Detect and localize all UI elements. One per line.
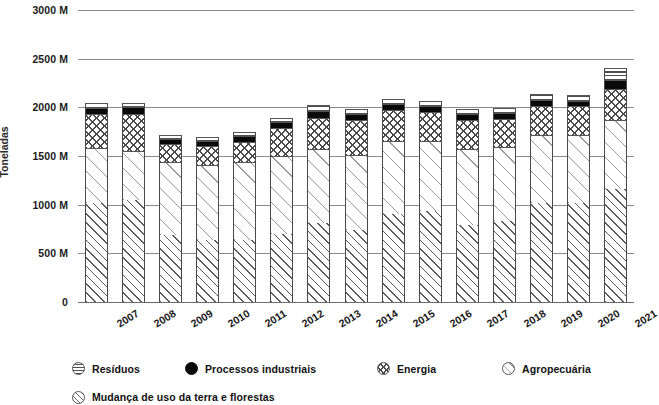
bar-segment: [456, 149, 479, 225]
bar-segment: [382, 141, 405, 214]
x-axis-tick-label: 2020: [596, 307, 622, 330]
bar-segment: [493, 119, 516, 147]
bar-segment: [604, 120, 627, 189]
bar-segment: [493, 147, 516, 221]
bar-segment: [233, 142, 256, 162]
bar-segment: [567, 106, 590, 134]
x-axis-tick-label: 2012: [299, 307, 325, 330]
bar-segment: [307, 223, 330, 302]
legend-item[interactable]: Processos industriais: [185, 362, 316, 375]
bar-segment: [159, 235, 182, 302]
bar-segment: [270, 128, 293, 156]
bar-segment: [159, 144, 182, 162]
bar-segment: [419, 211, 442, 302]
bar-segment: [270, 234, 293, 302]
x-axis-tick-label: 2010: [225, 307, 251, 330]
bar-segment: [604, 89, 627, 121]
bar-segment: [567, 135, 590, 203]
x-axis-tick-label: 2016: [448, 307, 474, 330]
bar-segment: [233, 240, 256, 302]
bar-column[interactable]: [85, 103, 108, 302]
legend-item[interactable]: Agropecuária: [502, 362, 591, 375]
legend-row-primary: ResíduosProcessos industriaisEnergiaAgro…: [72, 359, 632, 378]
bar-column[interactable]: [604, 68, 627, 302]
legend-item-label: Resíduos: [92, 363, 140, 375]
legend-item-label: Energia: [397, 363, 436, 375]
circle-diagonal-hatch-icon: [72, 391, 85, 404]
bar-series-container: [78, 10, 634, 302]
x-axis-tick-label: 2018: [522, 307, 548, 330]
x-axis-tick-label: 2014: [374, 307, 400, 330]
y-axis-tick-label: 1500 M: [8, 150, 68, 162]
circle-horizontal-lines-icon: [72, 362, 85, 375]
bar-segment: [345, 230, 368, 302]
x-axis-tick-label: 2021: [633, 307, 659, 330]
bar-segment: [233, 162, 256, 239]
circle-solid-black-icon: [185, 362, 198, 375]
bar-segment: [307, 149, 330, 223]
x-axis-tick-label: 2015: [411, 307, 437, 330]
y-axis-tick-label: 2000 M: [8, 101, 68, 113]
bar-segment: [85, 148, 108, 203]
x-axis-tick-label: 2008: [151, 307, 177, 330]
bar-segment: [456, 225, 479, 302]
bar-segment: [382, 214, 405, 302]
bar-segment: [530, 135, 553, 203]
bar-segment: [567, 203, 590, 302]
bar-segment: [307, 118, 330, 150]
x-axis-tick-label: 2019: [559, 307, 585, 330]
bar-column[interactable]: [270, 118, 293, 302]
legend-item[interactable]: Energia: [377, 362, 436, 375]
bar-segment: [85, 203, 108, 302]
legend-item[interactable]: Resíduos: [72, 362, 140, 375]
y-axis-title: Toneladas: [0, 126, 10, 177]
bar-segment: [122, 200, 145, 302]
bar-segment: [270, 156, 293, 234]
bar-segment: [159, 162, 182, 235]
bar-column[interactable]: [159, 135, 182, 302]
y-axis-tick-label: 500 M: [8, 247, 68, 259]
bar-column[interactable]: [493, 108, 516, 302]
bar-segment: [456, 120, 479, 149]
bar-column[interactable]: [233, 132, 256, 302]
x-axis-tick-labels: 2007200820092010201120122013201420152016…: [78, 303, 634, 343]
circle-cross-hatch-icon: [377, 362, 390, 375]
bar-segment: [419, 141, 442, 211]
bar-column[interactable]: [307, 105, 330, 302]
legend-item-label: Agropecuária: [522, 363, 591, 375]
y-axis-tick-label: 0: [8, 296, 68, 308]
legend-item[interactable]: Mudança de uso da terra e florestas: [72, 391, 275, 404]
bar-column[interactable]: [196, 137, 219, 302]
bar-segment: [196, 240, 219, 302]
bar-segment: [530, 203, 553, 302]
plot-area: [78, 10, 634, 302]
bar-column[interactable]: [382, 99, 405, 302]
bar-column[interactable]: [345, 109, 368, 302]
bar-segment: [419, 112, 442, 141]
bar-segment: [382, 110, 405, 142]
bar-segment: [345, 155, 368, 230]
bar-segment: [196, 146, 219, 164]
bar-segment: [604, 80, 627, 89]
legend-row-secondary: Mudança de uso da terra e florestas: [72, 378, 632, 397]
bar-segment: [85, 114, 108, 148]
bar-segment: [122, 114, 145, 151]
bar-column[interactable]: [530, 94, 553, 302]
x-axis-tick-label: 2009: [188, 307, 214, 330]
bar-column[interactable]: [122, 103, 145, 303]
x-axis-tick-label: 2007: [114, 307, 140, 330]
bar-segment: [196, 165, 219, 240]
bar-column[interactable]: [567, 95, 590, 302]
y-axis-tick-label: 2500 M: [8, 53, 68, 65]
bar-segment: [345, 120, 368, 155]
bar-segment: [122, 107, 145, 114]
bar-column[interactable]: [419, 101, 442, 302]
legend: ResíduosProcessos industriaisEnergiaAgro…: [72, 359, 632, 397]
bar-segment: [604, 189, 627, 302]
bar-segment: [307, 111, 330, 118]
bar-column[interactable]: [456, 109, 479, 302]
x-axis-tick-label: 2017: [485, 307, 511, 330]
bar-segment: [493, 221, 516, 302]
y-axis-tick-label: 3000 M: [8, 4, 68, 16]
